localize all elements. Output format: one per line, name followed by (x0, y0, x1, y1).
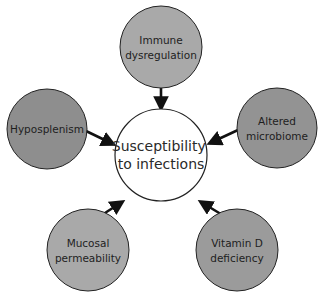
node-label-line: microbiome (246, 130, 308, 142)
arrow-microbiome-to-center (210, 130, 238, 143)
node-circle-immune (120, 6, 202, 88)
node-circle-microbiome (237, 88, 317, 168)
diagram-canvas: ImmunedysregulationHyposplenismAlteredmi… (0, 0, 322, 305)
node-circle-vitamin-d (196, 209, 278, 291)
node-label-line: permeability (55, 252, 121, 264)
arrow-hyposplenism-to-center (86, 131, 113, 144)
node-label-line: Mucosal (67, 237, 110, 249)
node-label-hyposplenism: Hyposplenism (10, 123, 84, 135)
node-vitamin-d: Vitamin Ddeficiency (196, 209, 278, 291)
node-circle-mucosal (47, 209, 129, 291)
node-microbiome: Alteredmicrobiome (237, 88, 317, 168)
node-label-line: dysregulation (125, 49, 197, 61)
center-circle (115, 109, 207, 201)
node-label-line: Hyposplenism (10, 123, 84, 135)
center-label-line-2: to infections (118, 156, 205, 172)
node-hyposplenism: Hyposplenism (7, 89, 87, 169)
node-immune: Immunedysregulation (120, 6, 202, 88)
center-label-line-1: Susceptibility (112, 138, 206, 154)
node-label-line: Immune (139, 34, 182, 46)
center-node: Susceptibility to infections (112, 109, 210, 201)
node-label-line: Altered (258, 115, 296, 127)
node-label-line: deficiency (210, 252, 264, 264)
susceptibility-diagram: ImmunedysregulationHyposplenismAlteredmi… (0, 0, 322, 305)
node-label-line: Vitamin D (211, 237, 263, 249)
node-mucosal: Mucosalpermeability (47, 209, 129, 291)
